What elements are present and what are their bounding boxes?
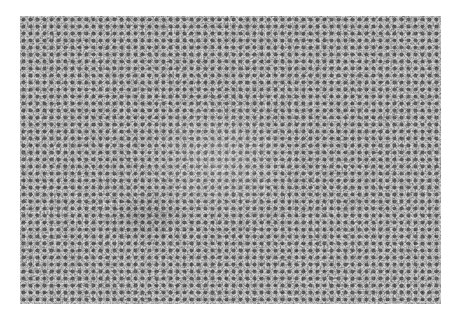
cell-texture — [20, 16, 441, 304]
micrograph-image — [20, 16, 441, 304]
page — [0, 0, 453, 311]
